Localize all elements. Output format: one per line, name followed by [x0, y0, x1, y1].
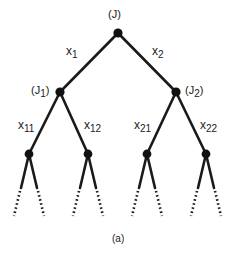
node-J1	[55, 87, 64, 96]
branch-stub	[206, 154, 214, 188]
continuation-dots	[38, 191, 44, 216]
node-leaf	[202, 150, 211, 159]
node-leaf	[25, 150, 34, 159]
edge-x21	[147, 92, 176, 154]
continuation-dots	[97, 191, 103, 216]
node-label-J: (J)	[108, 9, 121, 20]
continuation-dots	[215, 191, 221, 216]
edge-label-x12: x12	[84, 119, 101, 131]
node-label-J2: (J2)	[185, 85, 203, 96]
continuation-dots	[73, 191, 79, 216]
branch-stub	[147, 154, 155, 188]
continuation-dots	[156, 191, 162, 216]
branch-stub	[29, 154, 37, 188]
edge-label-x2: x2	[152, 45, 164, 57]
edge-label-x22: x22	[200, 119, 217, 131]
continuation-dots	[191, 191, 197, 216]
continuation-dots	[132, 191, 138, 216]
branch-stub	[198, 154, 206, 188]
node-J2	[171, 87, 180, 96]
edge-x1	[60, 33, 118, 92]
edge-label-x11: x11	[18, 119, 34, 131]
figure-caption: (a)	[112, 234, 124, 244]
continuation-dots	[14, 191, 20, 216]
node-leaf	[143, 150, 152, 159]
node-J	[113, 28, 122, 37]
node-label-J1: (J1)	[31, 85, 49, 96]
branch-stub	[21, 154, 29, 188]
branch-stub	[88, 154, 96, 188]
branch-stub	[139, 154, 147, 188]
node-leaf	[84, 150, 93, 159]
branch-stub	[80, 154, 88, 188]
edge-label-x1: x1	[66, 45, 78, 57]
edge-label-x21: x21	[134, 119, 151, 131]
edge-x2	[118, 33, 176, 92]
